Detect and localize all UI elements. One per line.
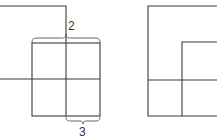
diagram-canvas: 2 3 bbox=[0, 0, 217, 140]
left-panel: 2 3 bbox=[0, 6, 100, 139]
bottom-brace bbox=[66, 117, 100, 124]
right-panel bbox=[148, 6, 217, 116]
top-brace-label: 2 bbox=[68, 19, 75, 33]
inner-l-shape bbox=[182, 42, 217, 116]
outer-l-shape bbox=[0, 6, 66, 116]
bottom-brace-label: 3 bbox=[79, 125, 86, 139]
